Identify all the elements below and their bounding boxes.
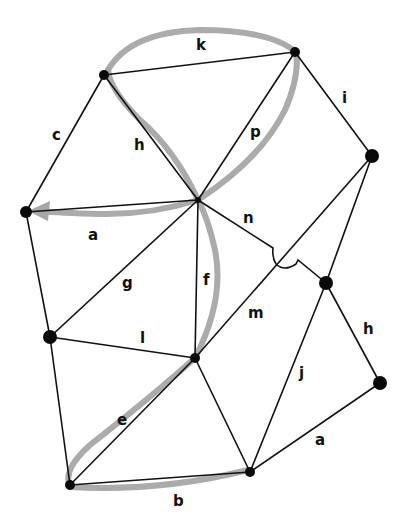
node-bottom-center	[245, 467, 255, 477]
label-a-upper: a	[88, 226, 98, 244]
highlight-segment-h	[108, 70, 198, 200]
edge-l	[50, 337, 195, 358]
edge-g-j	[195, 358, 250, 472]
node-center-lower	[190, 353, 200, 363]
edge-c-e	[326, 156, 372, 283]
node-top-left	[99, 70, 109, 80]
edge-i	[295, 52, 372, 156]
label-k: k	[196, 36, 207, 54]
node-right	[365, 149, 379, 163]
edge-p	[198, 52, 295, 200]
label-h-upper: h	[134, 136, 145, 154]
label-b: b	[173, 492, 184, 510]
edge-c	[26, 75, 104, 212]
edge-k	[104, 52, 295, 75]
node-hub	[195, 197, 201, 203]
edges	[26, 52, 380, 485]
label-a-lower: a	[315, 431, 325, 449]
highlighted-route	[28, 30, 297, 488]
label-n: n	[243, 209, 254, 227]
node-right-lower	[373, 376, 387, 390]
edge-e	[70, 358, 195, 485]
edge-f-i	[50, 337, 70, 485]
label-e: e	[117, 411, 127, 429]
edge-a-lower	[250, 383, 380, 472]
edge-g	[50, 200, 198, 337]
label-g: g	[122, 274, 133, 292]
label-f: f	[203, 271, 210, 289]
label-p: p	[250, 123, 261, 141]
edge-h-upper	[104, 75, 198, 200]
edge-d-f	[26, 212, 50, 337]
node-left	[20, 206, 32, 218]
label-l: l	[140, 329, 145, 347]
label-j: j	[298, 364, 304, 382]
node-top-right	[290, 47, 300, 57]
label-c: c	[52, 126, 61, 144]
label-i: i	[342, 89, 347, 107]
node-mid-right	[319, 276, 333, 290]
edge-f	[195, 200, 198, 358]
graph-diagram: k c h p i a n g f m h l j e a b	[0, 0, 408, 523]
node-left-lower	[43, 330, 57, 344]
label-h-lower: h	[363, 320, 374, 338]
node-bottom-left	[65, 480, 75, 490]
label-m: m	[248, 304, 264, 322]
